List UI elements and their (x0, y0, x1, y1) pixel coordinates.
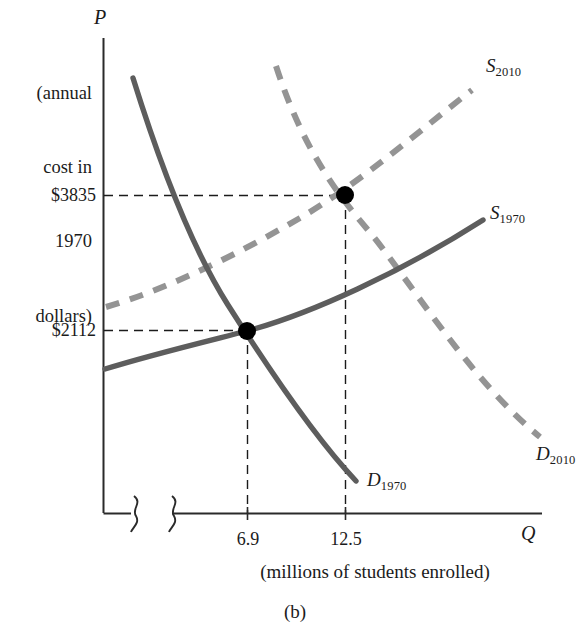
demand-curve-1970-label-sub: 1970 (381, 479, 407, 493)
demand-curve-2010-label-sub: 2010 (550, 453, 576, 467)
demand-curve-1970-label-base: D (367, 469, 381, 490)
x-axis-symbol: Q (521, 522, 535, 546)
demand-curve-1970 (133, 78, 356, 481)
equilibrium-point-2010 (336, 186, 354, 204)
figure-panel-b: P Q (annual cost in 1970 dollars) $3835 … (0, 0, 587, 636)
supply-curve-2010 (106, 90, 472, 307)
y-axis-caption-line-3: 1970 (0, 229, 92, 254)
demand-curve-2010 (276, 66, 540, 437)
panel-caption: (b) (240, 601, 350, 623)
demand-curve-1970-label: D1970 (367, 469, 407, 493)
supply-curve-2010-label-base: S (486, 55, 496, 76)
demand-curve-2010-label-base: D (536, 443, 550, 464)
supply-curve-1970-label-sub: 1970 (500, 212, 526, 226)
supply-curve-1970 (105, 220, 483, 369)
supply-curve-1970-label: S1970 (490, 202, 525, 226)
y-axis-caption-line-1: (annual (0, 81, 92, 106)
y-tick-label-high: $3835 (10, 185, 96, 206)
equilibrium-point-1970 (238, 322, 256, 340)
x-axis-caption: (millions of students enrolled) (200, 561, 550, 583)
supply-curve-1970-label-base: S (490, 202, 500, 223)
y-axis-caption-line-2: cost in (0, 155, 92, 180)
x-tick-label-low: 6.9 (227, 529, 269, 550)
demand-curve-2010-label: D2010 (536, 443, 576, 467)
supply-curve-2010-label: S2010 (486, 55, 521, 79)
supply-curve-2010-label-sub: 2010 (496, 65, 522, 79)
axis-break-mark-1 (131, 496, 137, 532)
y-axis-symbol: P (94, 6, 106, 30)
x-tick-label-high: 12.5 (322, 529, 370, 550)
y-tick-label-low: $2112 (10, 320, 96, 341)
